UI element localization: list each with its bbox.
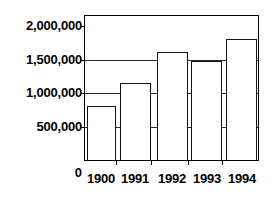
x-axis-label-1991: 1991: [121, 172, 149, 185]
x-axis-label-1900: 1900: [87, 172, 115, 185]
bar-1991: [120, 83, 151, 160]
y-axis-label-2000000: 2,000,000: [26, 19, 82, 32]
bar-1993: [191, 61, 222, 160]
y-axis-label-1500000: 1,500,000: [26, 52, 82, 65]
y-axis-label-0: 0: [75, 166, 82, 179]
x-tickmark-2: [151, 160, 152, 165]
y-tickmark-2000000: [80, 26, 85, 27]
x-tickmark-4: [222, 160, 223, 165]
y-tickmark-1500000: [80, 60, 85, 61]
y-tickmark-1000000: [80, 93, 85, 94]
x-axis-label-1992: 1992: [158, 172, 186, 185]
bar-1994: [226, 39, 257, 160]
bar-1992: [157, 52, 188, 161]
x-tickmark-3: [188, 160, 189, 165]
y-axis-label-1000000: 1,000,000: [26, 86, 82, 99]
x-axis-label-1994: 1994: [228, 172, 256, 185]
plot-area: [84, 15, 259, 161]
bar-1900: [87, 106, 116, 160]
y-tickmark-500000: [80, 127, 85, 128]
x-tickmark-1: [116, 160, 117, 165]
x-axis-label-1993: 1993: [193, 172, 221, 185]
y-axis-label-500000: 500,000: [36, 119, 82, 132]
bar-chart: 2,000,000 1,500,000 1,000,000 500,000 0 …: [0, 0, 274, 200]
